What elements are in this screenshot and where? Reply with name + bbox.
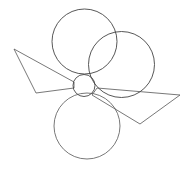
bottom-circle [54,93,120,159]
right-circle [89,32,155,98]
top-circle [52,9,117,74]
left-quadrilateral [14,49,74,93]
geometric-diagram [0,0,186,170]
